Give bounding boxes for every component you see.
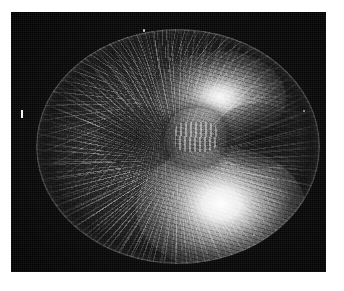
figure-root: Grayscale fluorescence micrograph of a d…	[0, 0, 344, 291]
chromosome-mass	[165, 108, 227, 166]
emulsion-speck-right	[303, 110, 305, 112]
emulsion-speck-bottom	[253, 234, 255, 236]
cell-body	[36, 29, 320, 264]
emulsion-speck-top	[143, 29, 145, 32]
micrograph-image	[11, 12, 326, 272]
scale-bar	[21, 110, 23, 118]
